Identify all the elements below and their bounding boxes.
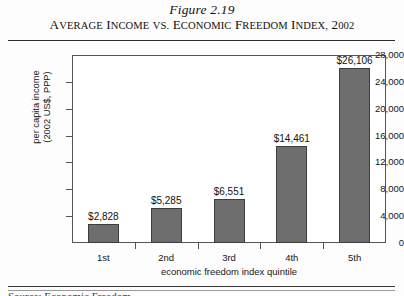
y-axis-title: per capita income (2002 US$, PPP)	[31, 42, 53, 172]
figure-title-word: INDEX,	[291, 17, 328, 32]
bar-3rd	[214, 199, 245, 243]
bar-1st	[88, 224, 119, 243]
y-axis-tick-mark	[66, 189, 72, 190]
x-axis-title: economic freedom index quintile	[72, 266, 386, 277]
bar-chart: per capita income (2002 US$, PPP) 28,000…	[0, 44, 404, 284]
bar-value-label: $2,828	[67, 211, 139, 222]
x-axis-tick-mark	[135, 243, 136, 249]
figure-number: Figure 2.19	[0, 2, 404, 17]
x-axis-tick-label: 1st	[73, 252, 133, 263]
y-axis-title-line1: per capita income	[31, 42, 42, 172]
figure-title-word: 2002	[331, 17, 354, 32]
y-axis-tick-mark	[66, 136, 72, 137]
x-axis-tick-mark	[323, 243, 324, 249]
bar-value-label: $6,551	[193, 186, 265, 197]
figure-title-word: ECONOMIC	[173, 17, 232, 32]
bar-value-label: $26,106	[319, 55, 391, 66]
x-axis-tick-label: 5th	[325, 252, 385, 263]
bar-5th	[339, 68, 370, 243]
x-axis-tick-label: 2nd	[136, 252, 196, 263]
y-axis-tick-mark	[66, 162, 72, 163]
x-axis-tick-mark	[260, 243, 261, 249]
y-axis-tick-mark	[66, 109, 72, 110]
figure-title-word: INCOME	[106, 17, 149, 32]
footnote-text: Source: Economic Freedom	[8, 291, 308, 296]
x-axis-tick-mark	[198, 243, 199, 249]
y-axis-title-line2: (2002 US$, PPP)	[42, 42, 53, 172]
y-axis-tick-mark	[66, 82, 72, 83]
bar-4th	[276, 146, 307, 243]
footer-divider-rule	[8, 286, 395, 287]
figure-title: AVERAGE INCOME VS. ECONOMIC FREEDOM INDE…	[0, 17, 404, 34]
bar-2nd	[151, 208, 182, 243]
figure-title-word: VS.	[153, 20, 170, 31]
figure-title-word: FREEDOM	[235, 17, 288, 32]
header-divider-rule	[8, 40, 395, 41]
bar-value-label: $5,285	[130, 195, 202, 206]
x-axis-tick-label: 4th	[262, 252, 322, 263]
bar-value-label: $14,461	[256, 133, 328, 144]
x-axis-tick-label: 3rd	[199, 252, 259, 263]
figure-heading: Figure 2.19 AVERAGE INCOME VS. ECONOMIC …	[0, 2, 404, 34]
figure-title-word: AVERAGE	[50, 17, 103, 32]
